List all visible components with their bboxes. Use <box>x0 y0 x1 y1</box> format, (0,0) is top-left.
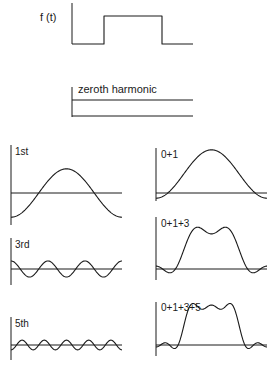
panel-h5: 5th <box>11 317 122 360</box>
panel-label-sum-0-1: 0+1 <box>161 149 178 160</box>
panel-ft: f (t) <box>40 3 193 44</box>
panel-label-h5: 5th <box>15 318 29 329</box>
panel-zeroth: zeroth harmonic <box>72 83 193 117</box>
panel-label-h1: 1st <box>15 146 29 157</box>
panel-sum-0-1: 0+1 <box>156 148 267 201</box>
pulse-curve-ft <box>72 16 193 44</box>
fourier-synthesis-diagram: f (t) zeroth harmonic 1st 3rd 5th 0+1 0+… <box>0 0 278 373</box>
panel-label-sum-0-1-3-5: 0+1+3+5 <box>161 302 201 313</box>
panel-sum-0-1-3: 0+1+3 <box>156 217 267 280</box>
panel-label-ft: f (t) <box>40 11 57 23</box>
panel-label-h3: 3rd <box>15 239 29 250</box>
panel-label-sum-0-1-3: 0+1+3 <box>161 218 190 229</box>
panel-sum-0-1-3-5: 0+1+3+5 <box>156 302 267 356</box>
curve-sum-0-1-3 <box>156 227 267 273</box>
panel-h3: 3rd <box>11 238 122 285</box>
panel-label-zeroth: zeroth harmonic <box>78 83 157 95</box>
panel-h1: 1st <box>11 145 122 225</box>
